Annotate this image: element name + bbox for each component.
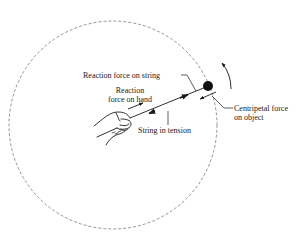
leader-reaction-on-string	[181, 75, 196, 91]
force-diagram: Reaction force on string Reaction force …	[0, 0, 306, 243]
label-reaction-on-string: Reaction force on string	[83, 71, 160, 80]
tension-arrow-hand-side	[149, 111, 155, 114]
label-centripetal: Centripetal force on object	[234, 104, 288, 122]
label-reaction-on-hand-line1: Reaction	[98, 86, 162, 95]
label-string-tension: String in tension	[138, 126, 191, 135]
label-centripetal-line2: on object	[234, 113, 288, 122]
hand-icon	[94, 112, 131, 145]
orbit-path	[9, 21, 217, 229]
label-reaction-on-hand-line2: force on hand	[98, 95, 162, 104]
label-reaction-on-hand: Reaction force on hand	[98, 86, 162, 104]
rotation-arrow-icon	[222, 63, 231, 89]
object-ball-icon	[203, 81, 213, 91]
leader-centripetal	[212, 96, 233, 108]
label-centripetal-line1: Centripetal force	[234, 104, 288, 113]
reaction-on-string-arrow	[180, 95, 188, 99]
